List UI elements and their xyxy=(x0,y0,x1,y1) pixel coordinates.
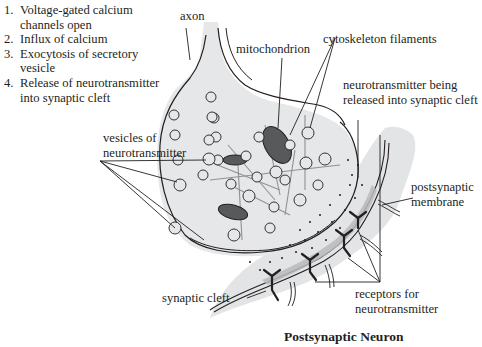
process-steps-list: 1.Voltage-gated calcium channels open 2.… xyxy=(4,3,176,105)
label-cytoskeleton-filaments: cytoskeleton filaments xyxy=(323,32,437,47)
label-receptors-line2: neurotransmitter xyxy=(355,302,438,317)
label-mitochondrion: mitochondrion xyxy=(236,42,310,57)
label-neurotransmitter-released-line1: neurotransmitter being xyxy=(343,78,457,93)
label-postsynaptic-membrane-line1: postsynaptic xyxy=(411,180,474,195)
step-1: 1.Voltage-gated calcium channels open xyxy=(4,3,176,32)
step-3: 3.Exocytosis of secretory vesicle xyxy=(4,47,176,76)
label-neurotransmitter-released-line2: released into synaptic cleft xyxy=(343,93,478,108)
step-2: 2.Influx of calcium xyxy=(4,32,176,47)
postsynaptic-neuron-title: Postsynaptic Neuron xyxy=(284,329,403,345)
label-vesicles-line1: vesicles of xyxy=(103,131,157,146)
label-vesicles-line2: neurotransmitter xyxy=(103,146,186,161)
label-postsynaptic-membrane-line2: membrane xyxy=(411,195,464,210)
label-receptors-line1: receptors for xyxy=(355,287,419,302)
label-axon: axon xyxy=(180,9,204,24)
label-synaptic-cleft: synaptic cleft xyxy=(162,291,230,306)
step-4: 4.Release of neurotransmitter into synap… xyxy=(4,76,176,105)
